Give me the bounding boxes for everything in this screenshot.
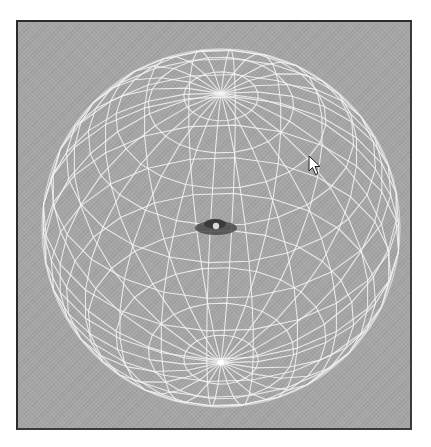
arrow-pointer-icon [308, 155, 322, 177]
center-object[interactable] [195, 219, 237, 235]
wireframe-sphere [18, 22, 412, 430]
3d-viewport[interactable] [16, 20, 412, 430]
figure-caption [20, 440, 420, 447]
south-pole-point [218, 360, 224, 366]
